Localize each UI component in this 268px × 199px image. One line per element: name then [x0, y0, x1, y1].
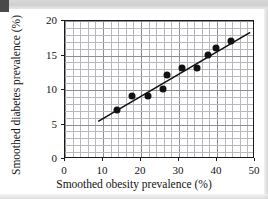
x-tick-label: 50	[249, 164, 260, 176]
data-point	[194, 65, 201, 72]
gridline-horizontal	[65, 35, 253, 36]
scatter-plot-figure: 01020304050 05101520 Smoothed obesity pr…	[0, 0, 268, 199]
data-point	[129, 92, 136, 99]
data-point	[178, 65, 185, 72]
gridline-horizontal	[65, 97, 253, 98]
gridline-horizontal	[65, 111, 253, 112]
data-point	[163, 72, 170, 79]
x-tick-mark	[64, 158, 65, 161]
gridline-horizontal	[65, 21, 253, 22]
x-tick-label: 20	[135, 164, 146, 176]
x-tick-label: 10	[97, 164, 108, 176]
data-point	[159, 86, 166, 93]
x-tick-label: 0	[61, 164, 67, 176]
gridline-horizontal	[65, 118, 253, 119]
gridline-horizontal	[65, 104, 253, 105]
data-point	[114, 106, 121, 113]
y-axis-label: Smoothed diabetes prevalence (%)	[10, 15, 22, 175]
y-tick-label: 20	[36, 14, 57, 26]
gridline-horizontal	[65, 83, 253, 84]
x-tick-mark	[140, 158, 141, 161]
gridline-horizontal	[65, 131, 253, 132]
gridline-horizontal	[65, 49, 253, 50]
y-tick-mark	[61, 158, 64, 159]
y-tick-label: 10	[36, 83, 57, 95]
gridline-horizontal	[65, 69, 253, 70]
y-tick-mark	[61, 89, 64, 90]
y-tick-mark	[61, 20, 64, 21]
data-point	[213, 44, 220, 51]
y-tick-mark	[61, 124, 64, 125]
y-tick-label: 0	[36, 152, 57, 164]
x-tick-label: 40	[211, 164, 222, 176]
data-point	[228, 37, 235, 44]
x-tick-mark	[178, 158, 179, 161]
gridline-horizontal	[65, 56, 253, 57]
y-tick-label: 5	[36, 118, 57, 130]
x-tick-mark	[216, 158, 217, 161]
gridline-horizontal	[65, 28, 253, 29]
x-tick-mark	[254, 158, 255, 161]
gridline-horizontal	[65, 145, 253, 146]
gridline-horizontal	[65, 62, 253, 63]
gridline-horizontal	[65, 76, 253, 77]
y-tick-mark	[61, 55, 64, 56]
gridline-horizontal	[65, 138, 253, 139]
gridline-horizontal	[65, 42, 253, 43]
data-point	[205, 51, 212, 58]
y-tick-label: 15	[36, 49, 57, 61]
x-tick-mark	[102, 158, 103, 161]
data-point	[144, 92, 151, 99]
x-axis-label: Smoothed obesity prevalence (%)	[0, 178, 268, 190]
gridline-horizontal	[65, 125, 253, 126]
x-tick-label: 30	[173, 164, 184, 176]
gridline-horizontal	[65, 152, 253, 153]
